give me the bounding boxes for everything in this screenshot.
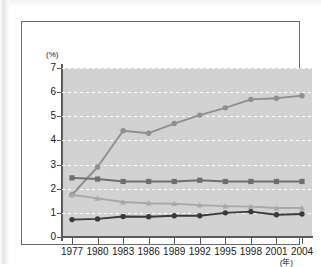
y-tick-label-0: 0 [30,232,56,242]
y-tick-mark-4 [57,140,62,141]
gridline-5 [62,116,312,117]
gridline-7 [62,68,312,69]
gridline-3 [62,165,312,166]
x-axis-unit-label: (年) [280,258,293,267]
y-tick-label-6: 6 [30,87,56,97]
y-tick-label-1: 1 [30,208,56,218]
y-tick-label-2: 2 [30,184,56,194]
y-tick-mark-7 [57,68,62,69]
x-tick-label-2004: 2004 [285,246,319,257]
x-tick-mark-2004 [302,238,303,244]
x-tick-mark-1980 [98,238,99,244]
x-tick-mark-1992 [200,238,201,244]
plot-area [62,68,312,237]
y-tick-mark-0 [57,237,62,238]
gridline-1 [62,213,312,214]
y-axis-line [61,64,63,241]
line-chart: (%) 01234567 197719801983198619891992199… [21,21,300,245]
page-left-edge [0,0,9,264]
x-tick-mark-1995 [225,238,226,244]
gridline-6 [62,92,312,93]
x-tick-mark-1998 [251,238,252,244]
x-tick-mark-2001 [276,238,277,244]
y-tick-label-5: 5 [30,111,56,121]
y-tick-mark-2 [57,189,62,190]
y-axis-unit-label: (%) [46,50,58,59]
page-top-edge [0,0,321,6]
gridline-4 [62,140,312,141]
y-tick-mark-5 [57,116,62,117]
y-tick-label-3: 3 [30,160,56,170]
y-tick-label-4: 4 [30,135,56,145]
y-tick-mark-6 [57,92,62,93]
x-axis-line [61,236,313,238]
x-tick-mark-1983 [123,238,124,244]
x-tick-mark-1986 [149,238,150,244]
y-tick-label-7: 7 [30,63,56,73]
y-tick-mark-3 [57,165,62,166]
y-tick-mark-1 [57,213,62,214]
gridline-2 [62,189,312,190]
x-tick-mark-1989 [174,238,175,244]
x-tick-mark-1977 [72,238,73,244]
